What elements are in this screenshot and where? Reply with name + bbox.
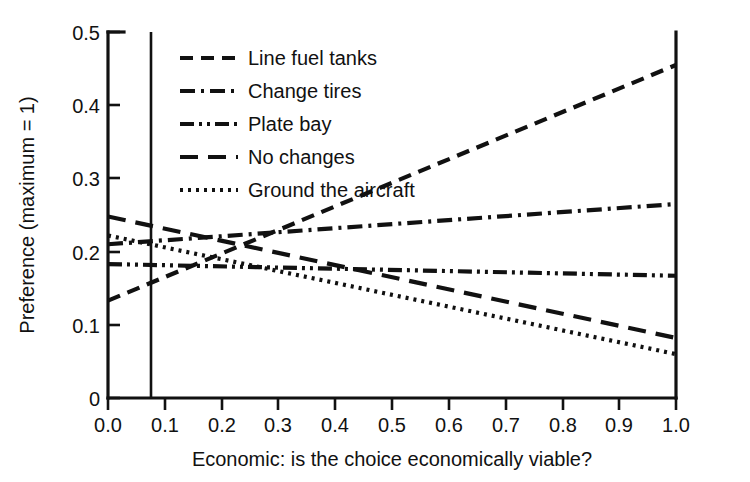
legend-label: Change tires bbox=[248, 80, 361, 102]
legend-label: No changes bbox=[248, 146, 355, 168]
legend-label: Ground the aircraft bbox=[248, 179, 415, 201]
chart-legend: Line fuel tanksChange tiresPlate bayNo c… bbox=[180, 47, 415, 201]
legend-label: Plate bay bbox=[248, 113, 331, 135]
x-tick-label: 1.0 bbox=[662, 414, 690, 436]
x-tick-label: 0.8 bbox=[549, 414, 577, 436]
chart-figure: 0.5 0.4 0.3 0.2 0.1 0 0.0 0.1 0.2 0.3 0.… bbox=[0, 0, 750, 482]
x-tick-label: 0.5 bbox=[378, 414, 406, 436]
x-tick-label: 0.1 bbox=[151, 414, 179, 436]
x-tick-label: 0.0 bbox=[94, 414, 122, 436]
y-tick-label: 0.2 bbox=[72, 242, 100, 264]
y-tick-label: 0.4 bbox=[72, 95, 100, 117]
x-axis-title: Economic: is the choice economically via… bbox=[192, 448, 592, 470]
axis-frame bbox=[108, 32, 676, 398]
x-tick-label: 0.3 bbox=[264, 414, 292, 436]
x-tick-label: 0.6 bbox=[435, 414, 463, 436]
y-tick-labels: 0.5 0.4 0.3 0.2 0.1 0 bbox=[72, 22, 100, 410]
line-chart: 0.5 0.4 0.3 0.2 0.1 0 0.0 0.1 0.2 0.3 0.… bbox=[0, 0, 750, 482]
y-tick-label: 0.5 bbox=[72, 22, 100, 44]
series-line-change-tires bbox=[108, 204, 676, 244]
x-tick-label: 0.2 bbox=[208, 414, 236, 436]
x-tick-marks bbox=[108, 398, 676, 410]
series-line-ground-the-aircraft bbox=[108, 235, 676, 354]
x-tick-label: 0.9 bbox=[605, 414, 633, 436]
series-group bbox=[108, 65, 676, 354]
y-axis-title: Preference (maximum = 1) bbox=[16, 96, 38, 333]
x-tick-labels: 0.0 0.1 0.2 0.3 0.4 0.5 0.6 0.7 0.8 0.9 … bbox=[94, 414, 690, 436]
series-line-no-changes bbox=[108, 216, 676, 338]
y-tick-label: 0.3 bbox=[72, 168, 100, 190]
x-tick-label: 0.7 bbox=[492, 414, 520, 436]
y-tick-label: 0 bbox=[89, 388, 100, 410]
legend-label: Line fuel tanks bbox=[248, 47, 377, 69]
x-tick-label: 0.4 bbox=[321, 414, 349, 436]
y-tick-label: 0.1 bbox=[72, 315, 100, 337]
